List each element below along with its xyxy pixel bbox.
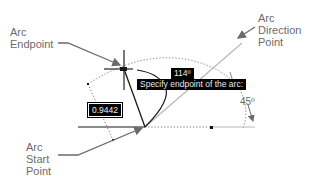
arc-direction-point-label: Arc Direction Point bbox=[258, 12, 301, 48]
cursor-pickbox bbox=[120, 67, 127, 71]
angle-45-label: 45º bbox=[240, 96, 255, 107]
length-input[interactable]: 0.9442 bbox=[89, 104, 121, 116]
chord-line bbox=[124, 69, 145, 127]
arc-direction-arrow bbox=[238, 27, 255, 38]
angle-tooltip: 114º bbox=[171, 68, 194, 79]
grip-point bbox=[210, 126, 213, 129]
arc-endpoint-arrow bbox=[58, 43, 120, 65]
command-prompt-tooltip: Specify endpoint of the arc: bbox=[137, 79, 246, 90]
arc-endpoint-label: Arc Endpoint bbox=[10, 26, 53, 50]
arc-start-arrow bbox=[58, 128, 142, 155]
angle-45-arrow bbox=[248, 105, 253, 121]
arc-start-point-label: Arc Start Point bbox=[26, 141, 51, 176]
grip-point bbox=[87, 83, 89, 85]
arc-diagram: Arc Endpoint Arc Direction Point Arc Sta… bbox=[0, 0, 311, 176]
